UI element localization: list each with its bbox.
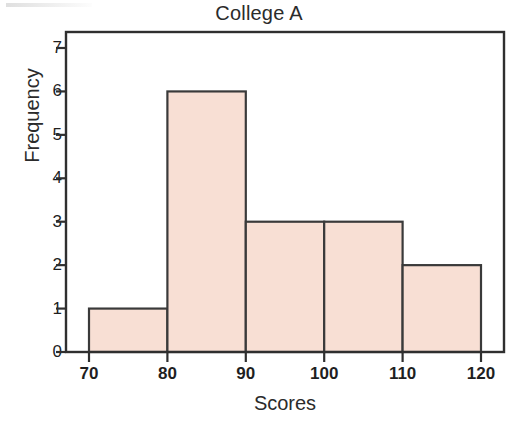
- y-axis-ticks: [56, 48, 66, 352]
- histogram-bar: [246, 222, 324, 352]
- histogram-bar: [324, 222, 402, 352]
- x-axis-ticks: [89, 352, 481, 362]
- plot-area: [0, 0, 518, 426]
- histogram-bar: [89, 309, 167, 352]
- histogram-figure: College A Frequency Scores 0 1 2 3 4 5 6…: [0, 0, 518, 426]
- histogram-bar: [403, 265, 481, 352]
- histogram-bars: [89, 91, 481, 352]
- histogram-bar: [167, 91, 245, 352]
